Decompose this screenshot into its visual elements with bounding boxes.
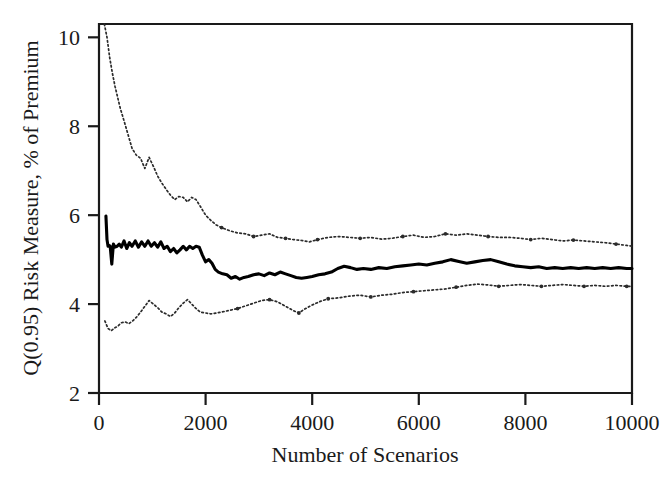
y-tick-label: 4 [69, 292, 80, 317]
series-marker [268, 298, 272, 302]
x-axis-title: Number of Scenarios [272, 442, 459, 467]
series-marker [284, 236, 288, 240]
series-marker [236, 307, 240, 311]
series-marker [571, 238, 575, 242]
x-tick-label: 8000 [503, 410, 547, 435]
y-tick-label: 8 [69, 114, 80, 139]
series-marker [444, 232, 448, 236]
series-marker [454, 285, 458, 289]
y-axis-title: Q(0.95) Risk Measure, % of Premium [18, 40, 43, 375]
y-tick-label: 6 [69, 203, 80, 228]
y-tick-label: 10 [58, 25, 80, 50]
series-marker [220, 226, 224, 230]
x-tick-label: 0 [94, 410, 105, 435]
series-marker [539, 284, 543, 288]
series-marker [401, 235, 405, 239]
series-marker [412, 290, 416, 294]
series-marker [326, 297, 330, 301]
x-tick-label: 4000 [290, 410, 334, 435]
series-marker [252, 235, 256, 239]
series-marker [369, 295, 373, 299]
series-marker [316, 238, 320, 242]
x-tick-label: 6000 [397, 410, 441, 435]
series-marker [625, 284, 629, 288]
series-marker [529, 238, 533, 242]
series-marker [582, 284, 586, 288]
chart-canvas: 246810 0200040006000800010000 Number of … [0, 0, 663, 481]
series-marker [497, 284, 501, 288]
series-marker [297, 311, 301, 315]
series-marker [486, 235, 490, 239]
x-tick-label: 2000 [184, 410, 228, 435]
y-tick-label: 2 [69, 381, 80, 406]
series-marker [358, 236, 362, 240]
x-tick-label: 10000 [605, 410, 660, 435]
chart-figure: 246810 0200040006000800010000 Number of … [0, 0, 663, 481]
series-marker [614, 242, 618, 246]
